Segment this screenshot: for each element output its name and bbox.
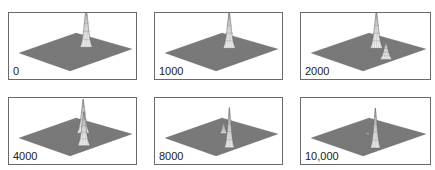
panel-label: 10,000: [305, 150, 339, 162]
panel-label: 2000: [305, 65, 329, 77]
panel-label: 0: [13, 65, 19, 77]
panel-label: 4000: [13, 150, 37, 162]
plot-panel-4: 8000: [154, 97, 283, 165]
peak: [80, 13, 92, 47]
plot-panel-1: 1000: [154, 12, 283, 80]
plot-panel-0: 0: [8, 12, 137, 80]
peak: [223, 13, 235, 48]
panel-label: 1000: [159, 65, 183, 77]
panel-label: 8000: [159, 150, 183, 162]
mesh-surface-0: [9, 13, 137, 80]
plot-panel-2: 2000: [300, 12, 431, 80]
plot-panel-5: 10,000: [300, 97, 431, 165]
plot-panel-3: 4000: [8, 97, 137, 165]
peak: [370, 13, 382, 48]
